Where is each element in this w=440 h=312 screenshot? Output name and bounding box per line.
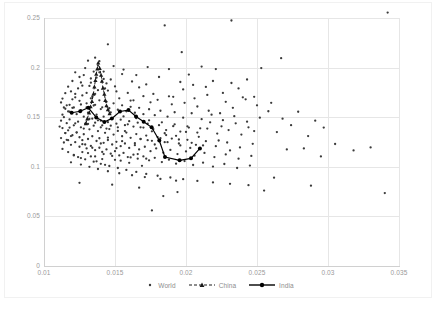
data-point: [60, 120, 62, 122]
data-point: [179, 81, 181, 83]
data-point: [206, 94, 208, 96]
data-point: [247, 126, 249, 128]
data-point: [145, 173, 147, 175]
data-point: [256, 104, 258, 106]
data-point: [103, 98, 107, 102]
data-point: [193, 97, 195, 99]
data-point: [172, 96, 174, 98]
data-point: [115, 122, 117, 124]
data-point: [186, 125, 188, 127]
data-point: [159, 110, 161, 112]
data-point: [186, 139, 188, 141]
data-point: [145, 134, 147, 136]
data-point: [84, 158, 86, 160]
data-point: [111, 184, 113, 186]
data-point: [85, 102, 87, 104]
data-point: [93, 70, 95, 72]
data-point: [91, 135, 93, 137]
data-point: [91, 147, 93, 149]
data-point: [196, 180, 198, 182]
data-point: [191, 142, 193, 144]
data-point: [148, 119, 150, 121]
data-point: [182, 88, 184, 90]
y-tick-label: 0.1: [10, 163, 40, 170]
data-point: [280, 57, 282, 59]
legend-item-china[interactable]: China: [189, 281, 236, 289]
data-point: [110, 116, 114, 120]
data-point: [83, 116, 85, 118]
data-point: [183, 160, 185, 162]
data-point: [128, 147, 130, 149]
data-point: [127, 92, 129, 94]
data-point: [74, 93, 76, 95]
data-point: [142, 113, 144, 115]
data-point: [209, 121, 211, 123]
data-point: [137, 158, 139, 160]
scatter-chart: 00.050.10.150.20.25 0.010.0150.020.0250.…: [0, 0, 440, 312]
legend-item-world[interactable]: World: [146, 281, 175, 289]
data-point: [166, 116, 168, 118]
data-point: [122, 152, 124, 154]
data-point: [94, 115, 98, 119]
data-point: [196, 105, 198, 107]
data-point: [118, 97, 120, 99]
data-point: [150, 125, 154, 129]
data-point: [90, 82, 92, 84]
data-point: [179, 130, 181, 132]
data-point: [220, 125, 222, 127]
data-point: [139, 126, 141, 128]
data-point: [253, 130, 255, 132]
data-point: [249, 164, 251, 166]
data-point: [68, 118, 70, 120]
data-point: [171, 103, 173, 105]
data-point: [205, 86, 207, 88]
data-point: [107, 136, 109, 138]
data-point: [118, 109, 122, 113]
data-point: [159, 178, 161, 180]
legend-item-india[interactable]: India: [249, 281, 294, 289]
data-point: [112, 102, 114, 104]
data-point: [105, 148, 107, 150]
data-point: [200, 65, 202, 67]
data-point: [108, 128, 110, 130]
data-point: [129, 106, 131, 108]
data-point: [78, 100, 80, 102]
data-point: [202, 161, 204, 163]
data-point: [222, 119, 224, 121]
data-point: [85, 92, 87, 94]
data-point: [149, 101, 151, 103]
data-point: [227, 129, 229, 131]
data-point: [77, 121, 79, 123]
data-point: [73, 106, 75, 108]
legend-label: World: [158, 282, 175, 289]
data-point: [64, 132, 66, 134]
data-point: [168, 68, 170, 70]
data-point: [117, 126, 119, 128]
data-point: [192, 164, 194, 166]
data-point: [68, 104, 70, 106]
chart-legend: WorldChinaIndia: [0, 278, 440, 292]
data-point: [63, 116, 65, 118]
data-point: [281, 118, 283, 120]
data-point: [58, 125, 60, 127]
data-point: [144, 146, 146, 148]
data-point: [131, 80, 133, 82]
data-point: [226, 141, 228, 143]
data-point: [60, 137, 62, 139]
data-point: [77, 156, 79, 158]
data-point: [125, 169, 127, 171]
data-point: [307, 135, 309, 137]
data-point: [104, 103, 108, 107]
data-point: [102, 116, 104, 118]
data-point: [129, 99, 131, 101]
data-point: [203, 152, 205, 154]
data-point: [86, 106, 90, 110]
data-point: [68, 126, 70, 128]
data-point: [215, 145, 217, 147]
data-point: [276, 131, 278, 133]
data-point: [100, 163, 102, 165]
data-point: [152, 93, 154, 95]
data-point: [200, 118, 202, 120]
data-point: [128, 162, 130, 164]
data-point: [369, 146, 371, 148]
